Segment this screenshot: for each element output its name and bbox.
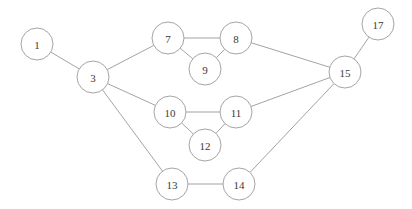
graph-edge-15-17: [354, 37, 369, 59]
graph-node-label-14: 14: [234, 179, 246, 191]
graph-node-label-11: 11: [231, 107, 242, 119]
graph-edge-3-10: [108, 84, 156, 106]
graph-node-11[interactable]: 11: [220, 96, 252, 128]
graph-node-14[interactable]: 14: [223, 168, 255, 200]
graph-node-7[interactable]: 7: [152, 22, 184, 54]
graph-edge-8-15: [251, 43, 329, 67]
graph-node-label-17: 17: [373, 19, 385, 31]
graph-node-8[interactable]: 8: [220, 22, 252, 54]
graph-node-label-3: 3: [90, 72, 96, 84]
graph-node-3[interactable]: 3: [77, 61, 109, 93]
graph-edge-3-7: [107, 45, 154, 69]
graph-node-1[interactable]: 1: [21, 28, 53, 60]
graph-node-15[interactable]: 15: [329, 56, 361, 88]
graph-edge-3-13: [103, 90, 163, 171]
graph-edge-11-15: [251, 78, 330, 107]
graph-edge-10-12: [182, 123, 194, 134]
graph-node-label-15: 15: [340, 67, 352, 79]
graph-node-13[interactable]: 13: [156, 168, 188, 200]
graph-node-12[interactable]: 12: [189, 129, 221, 161]
graph-node-17[interactable]: 17: [362, 8, 394, 40]
graph-node-label-13: 13: [167, 179, 179, 191]
graph-node-label-12: 12: [200, 140, 211, 152]
graph-node-10[interactable]: 10: [154, 96, 186, 128]
graph-edge-7-9: [180, 48, 192, 58]
graph-diagram: 1378910111213141517: [0, 0, 412, 209]
graph-edge-11-12: [216, 124, 225, 134]
graph-node-label-10: 10: [165, 107, 177, 119]
graph-edge-14-15: [250, 84, 334, 173]
graph-node-9[interactable]: 9: [189, 53, 221, 85]
graph-node-label-8: 8: [233, 33, 239, 45]
graph-svg-surface: 1378910111213141517: [0, 0, 412, 209]
graph-node-label-1: 1: [34, 39, 40, 51]
node-layer: 1378910111213141517: [21, 8, 394, 200]
graph-edge-8-9: [216, 49, 224, 57]
graph-edge-1-3: [51, 52, 79, 69]
graph-node-label-7: 7: [165, 33, 171, 45]
graph-node-label-9: 9: [202, 64, 208, 76]
